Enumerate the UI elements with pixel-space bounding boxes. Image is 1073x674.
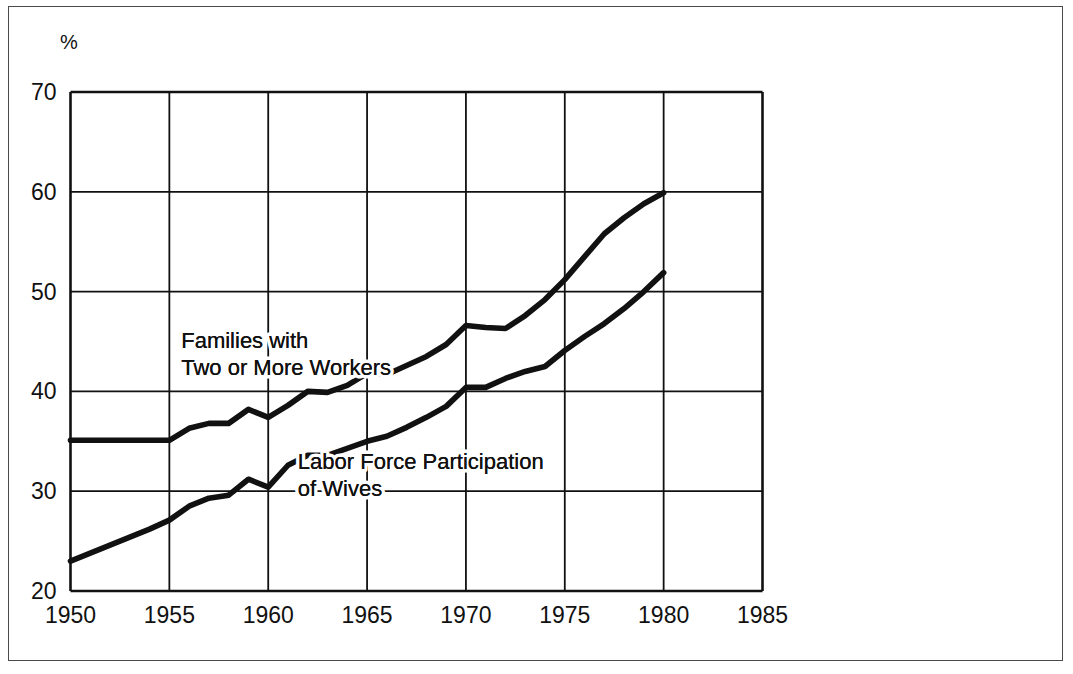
chart-figure: 203040506070 195019551960196519701975198… [0, 0, 1073, 674]
x-tick-label: 1970 [440, 602, 491, 628]
x-tick-label: 1985 [737, 602, 788, 628]
wives-label-line-1: of Wives [298, 476, 382, 501]
y-tick-label: 60 [31, 179, 57, 205]
y-axis-unit-label: % [60, 31, 78, 53]
families-label-line-0: Families with [181, 328, 308, 353]
x-axis-tick-labels: 19501955196019651970197519801985 [45, 602, 788, 628]
y-axis-tick-labels: 203040506070 [31, 79, 57, 604]
families-label: Families withFamilies withTwo or More Wo… [181, 328, 391, 380]
x-tick-label: 1980 [638, 602, 689, 628]
wives-label-line-0: Labor Force Participation [298, 449, 544, 474]
x-tick-label: 1960 [243, 602, 294, 628]
y-tick-label: 50 [31, 279, 57, 305]
y-tick-label: 70 [31, 79, 57, 105]
y-tick-label: 30 [31, 478, 57, 504]
x-tick-label: 1965 [341, 602, 392, 628]
x-tick-label: 1950 [45, 602, 96, 628]
y-tick-label: 20 [31, 578, 57, 604]
y-tick-label: 40 [31, 378, 57, 404]
families-label-line-1: Two or More Workers [181, 355, 391, 380]
wives-label: Labor Force ParticipationLabor Force Par… [298, 449, 544, 501]
x-tick-label: 1975 [539, 602, 590, 628]
x-tick-label: 1955 [144, 602, 195, 628]
series-annotations: Families withFamilies withTwo or More Wo… [181, 328, 543, 501]
line-chart: 203040506070 195019551960196519701975198… [0, 0, 1073, 674]
